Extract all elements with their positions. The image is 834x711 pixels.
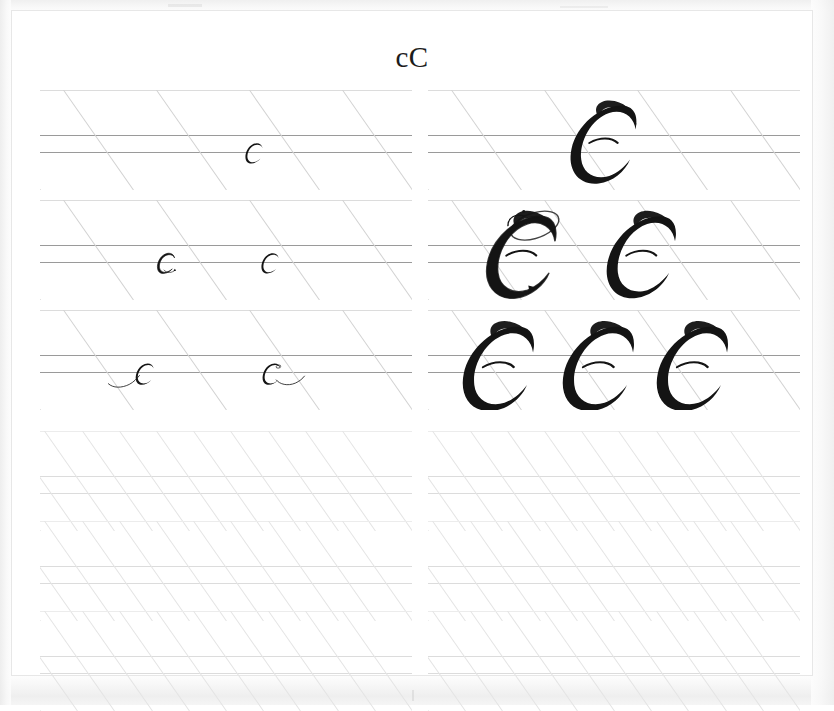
specimen-layer <box>428 310 800 410</box>
slant-guide-line <box>693 431 764 531</box>
slant-guide-line <box>40 310 41 410</box>
slant-guide-line <box>156 200 227 300</box>
practice-band-right-2 <box>428 521 800 621</box>
slant-guide-line <box>428 521 429 621</box>
slant-guide-line <box>544 90 615 190</box>
slant-guide-line <box>544 200 615 300</box>
guide-line-ascender <box>40 431 412 432</box>
slant-guide-line <box>656 611 727 711</box>
slant-guide-line <box>230 431 301 531</box>
guide-line-baseline <box>40 583 412 584</box>
practice-band-left-3 <box>40 611 412 711</box>
letter-specimen-C-plain <box>604 202 709 300</box>
slant-guide-line <box>470 521 541 621</box>
scan-edge-right <box>811 0 834 705</box>
slant-guide-line <box>82 611 153 711</box>
slant-guide-line <box>268 431 339 531</box>
specimen-layer <box>40 90 412 190</box>
slant-guide-line <box>428 431 466 531</box>
guide-line-baseline <box>428 262 800 263</box>
slant-guide-line <box>342 521 412 621</box>
guide-line-ascender <box>428 521 800 522</box>
slant-guide-line <box>40 431 41 531</box>
guide-line-baseline <box>40 673 412 674</box>
slant-guide-line <box>193 521 264 621</box>
slant-guide-line <box>730 90 800 190</box>
specimen-layer <box>428 521 800 621</box>
slant-guide-line <box>268 611 339 711</box>
letter-specimen-C-traced <box>484 202 589 300</box>
row-1-lowercase-demo <box>40 90 412 190</box>
slant-guide-line <box>581 521 652 621</box>
letter-specimen-C-plain <box>568 92 668 188</box>
slant-guide-line <box>451 90 522 190</box>
slant-guide-line <box>432 611 503 711</box>
slant-guide-line <box>342 611 412 711</box>
slant-guide-line <box>507 611 578 711</box>
slant-guide-line <box>305 521 376 621</box>
slant-guide-line <box>40 521 41 621</box>
specimen-layer <box>40 310 412 410</box>
page-title: cC <box>12 43 812 72</box>
guide-line-baseline <box>428 673 800 674</box>
scan-speck <box>412 690 414 701</box>
scan-speck <box>560 6 608 8</box>
slant-guide-line <box>44 431 115 531</box>
guide-line-baseline <box>40 372 412 373</box>
letter-specimen-c-traced <box>148 247 188 281</box>
slant-guide-line <box>428 611 429 711</box>
slant-guide-line <box>156 611 227 711</box>
row-3-uppercase-demo <box>428 310 800 410</box>
row-2-uppercase-demo <box>428 200 800 300</box>
slant-guide-line <box>618 611 689 711</box>
slant-guide-line <box>249 90 320 190</box>
specimen-layer <box>428 431 800 531</box>
slant-guide-line <box>656 431 727 531</box>
slant-guide-line <box>637 310 708 410</box>
guide-line-baseline <box>40 152 412 153</box>
guide-line-ascender <box>428 200 800 201</box>
guide-line-ascender <box>428 611 800 612</box>
letter-specimen-C-plain <box>560 312 668 410</box>
slant-guide-line <box>432 521 503 621</box>
guide-line-ascender <box>428 310 800 311</box>
guide-line-ascender <box>40 310 412 311</box>
guide-line-ascender <box>40 90 412 91</box>
row-2-lowercase-demo <box>40 200 412 300</box>
scan-edge-left <box>0 0 11 705</box>
slant-guide-line <box>119 521 190 621</box>
slant-guide-line <box>82 521 153 621</box>
slant-guide-line <box>193 431 264 531</box>
slant-guide-line <box>432 431 503 531</box>
letter-specimen-c-plain <box>236 137 276 171</box>
letter-specimen-C-plain <box>460 312 568 410</box>
slant-guide-line <box>637 200 708 300</box>
slant-guide-line <box>428 200 429 300</box>
slant-guide-line <box>544 521 615 621</box>
slant-guide-line <box>730 200 800 300</box>
slant-guide-line <box>730 310 800 410</box>
slant-guide-line <box>451 310 522 410</box>
worksheet-paper: cC <box>12 11 812 675</box>
slant-guide-line <box>63 310 134 410</box>
slant-guide-line <box>156 521 227 621</box>
practice-band-left-2 <box>40 521 412 621</box>
slant-guide-line <box>305 431 376 531</box>
slant-guide-line <box>82 431 153 531</box>
slant-guide-line <box>156 90 227 190</box>
slant-guide-line <box>656 521 727 621</box>
slant-guide-line <box>544 611 615 711</box>
slant-guide-line <box>693 521 764 621</box>
slant-guide-line <box>544 431 615 531</box>
slant-guide-line <box>40 200 41 300</box>
slant-guide-line <box>693 611 764 711</box>
slant-guide-line <box>40 611 41 711</box>
scan-speck <box>168 4 202 7</box>
slant-guide-line <box>618 431 689 531</box>
slant-guide-line <box>618 521 689 621</box>
slant-guide-line <box>581 431 652 531</box>
row-3-lowercase-demo <box>40 310 412 410</box>
slant-guide-line <box>637 90 708 190</box>
specimen-layer <box>428 200 800 300</box>
slant-guide-line <box>193 611 264 711</box>
